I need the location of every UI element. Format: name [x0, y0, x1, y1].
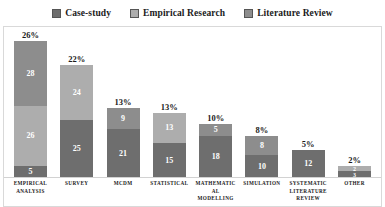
bar-segment-case-study[interactable]: 15	[153, 143, 186, 178]
bar-total-label: 22%	[68, 55, 85, 64]
bar-total-label: 13%	[161, 103, 178, 112]
bar-stack: 9 21	[107, 108, 140, 178]
bar-stack: 24 25	[60, 65, 93, 178]
stacked-bar-chart: Case-study Empirical Research Literature…	[0, 0, 385, 207]
category-label-mcdm: MCDM	[103, 180, 144, 188]
bar-segment-literature-review[interactable]: 28	[14, 41, 47, 106]
bar-series-container: 26% 28 26 5 22% 24 25	[10, 27, 375, 178]
category-label-mathematical-modelling: MATHEMATICAL MODELLING	[195, 180, 236, 203]
bar-segment-literature-review[interactable]: 9	[107, 108, 140, 129]
bar-stack: 8 10	[245, 136, 278, 178]
bar-total-label: 8%	[256, 126, 269, 135]
bar-segment-literature-review[interactable]: 8	[245, 136, 278, 155]
legend-swatch-icon	[130, 9, 139, 18]
category-label-empirical-analysis: EMPIRICAL ANALYSIS	[10, 180, 51, 195]
bar-stack: 12	[292, 150, 325, 178]
bar-segment-case-study[interactable]: 21	[107, 129, 140, 178]
legend-label: Empirical Research	[143, 8, 225, 18]
bar-stack: 13 15	[153, 113, 186, 178]
bar-segment-case-study[interactable]: 18	[199, 136, 232, 178]
category-label-other: OTHER	[334, 180, 375, 188]
bar-segment-empirical-research[interactable]: 26	[14, 106, 47, 166]
bar-total-label: 26%	[22, 31, 39, 40]
category-label-systematic-literature-review: SYSTEMATIC LITERATURE REVIEW	[288, 180, 329, 203]
bar-group[interactable]: 26% 28 26 5	[10, 27, 51, 178]
bar-segment-empirical-research[interactable]: 13	[153, 113, 186, 143]
bar-group[interactable]: 8% 8 10	[241, 27, 282, 178]
legend-item-case-study[interactable]: Case-study	[52, 8, 111, 18]
bar-segment-case-study[interactable]: 12	[292, 150, 325, 178]
bar-group[interactable]: 13% 9 21	[103, 27, 144, 178]
category-label-survey: SURVEY	[56, 180, 97, 188]
bar-total-label: 10%	[207, 114, 224, 123]
bar-total-label: 2%	[348, 156, 361, 165]
category-label-statistical: STATISTICAL	[149, 180, 190, 188]
bar-group[interactable]: 2% 2 3	[334, 27, 375, 178]
legend-label: Case-study	[65, 8, 111, 18]
bar-total-label: 13%	[115, 98, 132, 107]
legend-item-literature-review[interactable]: Literature Review	[244, 8, 333, 18]
bar-segment-case-study[interactable]: 10	[245, 155, 278, 178]
chart-legend: Case-study Empirical Research Literature…	[0, 0, 385, 26]
plot-frame: 26% 28 26 5 22% 24 25	[3, 26, 382, 207]
legend-swatch-icon	[52, 9, 61, 18]
legend-label: Literature Review	[257, 8, 333, 18]
bar-group[interactable]: 10% 5 18	[195, 27, 236, 178]
bar-stack: 28 26 5	[14, 41, 47, 178]
bar-group[interactable]: 5% 12	[288, 27, 329, 178]
category-label-simulation: SIMULATION	[241, 180, 282, 188]
bar-segment-case-study[interactable]: 25	[60, 120, 93, 178]
bar-segment-literature-review[interactable]: 5	[199, 124, 232, 136]
plot-area: 26% 28 26 5 22% 24 25	[4, 27, 381, 178]
bar-total-label: 5%	[302, 140, 315, 149]
bar-stack: 5 18	[199, 124, 232, 178]
legend-swatch-icon	[244, 9, 253, 18]
bar-segment-empirical-research[interactable]: 24	[60, 65, 93, 120]
category-axis-labels: EMPIRICAL ANALYSIS SURVEY MCDM STATISTIC…	[10, 178, 375, 206]
bar-group[interactable]: 13% 13 15	[149, 27, 190, 178]
legend-item-empirical-research[interactable]: Empirical Research	[130, 8, 225, 18]
bar-group[interactable]: 22% 24 25	[56, 27, 97, 178]
